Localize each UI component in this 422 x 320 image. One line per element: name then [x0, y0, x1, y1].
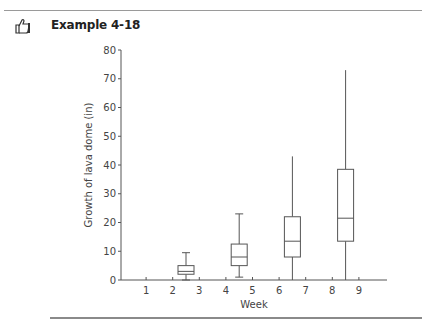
y-tick-label: 10 [103, 246, 116, 257]
x-tick-label: 8 [329, 285, 335, 296]
y-tick-label: 0 [110, 275, 116, 286]
y-tick-label: 30 [103, 188, 116, 199]
x-tick-label: 9 [356, 285, 362, 296]
x-tick-label: 2 [170, 285, 176, 296]
y-tick-label: 20 [103, 217, 116, 228]
y-tick-label: 70 [103, 73, 116, 84]
y-tick-label: 50 [103, 131, 116, 142]
y-axis-label: Growth of lava dome (in) [83, 103, 94, 228]
x-tick-label: 7 [303, 285, 309, 296]
bottom-rule [50, 317, 422, 319]
box [338, 169, 354, 241]
y-tick-label: 80 [103, 45, 116, 56]
box [231, 244, 247, 266]
x-tick-label: 1 [143, 285, 149, 296]
x-tick-label: 3 [196, 285, 202, 296]
x-tick-label: 4 [223, 285, 229, 296]
box-plot-chart: 01020304050607080123456789WeekGrowth of … [0, 0, 422, 320]
box [284, 217, 300, 257]
y-tick-label: 60 [103, 102, 116, 113]
box [178, 266, 194, 275]
y-tick-label: 40 [103, 160, 116, 171]
x-axis-label: Week [240, 299, 268, 310]
x-tick-label: 5 [249, 285, 255, 296]
x-tick-label: 6 [276, 285, 282, 296]
